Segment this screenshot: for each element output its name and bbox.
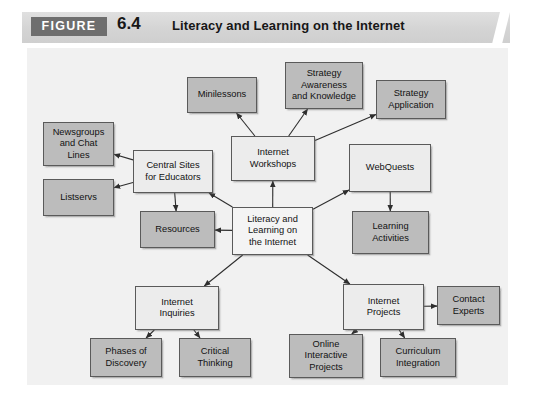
diagram-canvas: MinilessonsStrategy Awareness and Knowle… [27, 48, 508, 385]
connector-literacy-center-to-internet-projects [308, 255, 350, 284]
node-curriculum-integration[interactable]: Curriculum Integration [380, 338, 456, 377]
connector-central-sites-to-newsgroups [114, 154, 133, 160]
node-internet-workshops[interactable]: Internet Workshops [231, 136, 315, 181]
connector-internet-inquiries-to-critical-thinking [194, 330, 200, 338]
figure-title: Literacy and Learning on the Internet [172, 18, 405, 33]
connector-literacy-center-to-central-sites [209, 193, 232, 207]
node-phases-discovery[interactable]: Phases of Discovery [90, 338, 162, 377]
node-literacy-center[interactable]: Literacy and Learning on the Internet [232, 207, 313, 255]
connector-internet-workshops-to-minilessons [237, 113, 255, 136]
figure-number: 6.4 [117, 14, 141, 34]
connector-internet-workshops-to-strategy-application [315, 115, 376, 141]
node-internet-inquiries[interactable]: Internet Inquiries [135, 286, 219, 330]
node-resources[interactable]: Resources [140, 211, 215, 248]
node-online-interactive[interactable]: Online Interactive Projects [289, 334, 363, 378]
figure-page: FIGURE 6.4 Literacy and Learning on the … [0, 0, 535, 418]
node-learning-activities[interactable]: Learning Activities [352, 211, 429, 254]
connector-literacy-center-to-internet-inquiries [204, 255, 242, 286]
node-minilessons[interactable]: Minilessons [187, 77, 257, 113]
connector-internet-inquiries-to-phases-discovery [146, 330, 154, 338]
node-contact-experts[interactable]: Contact Experts [437, 286, 500, 325]
node-listservs[interactable]: Listservs [43, 179, 114, 216]
connector-internet-projects-to-curriculum-integration [399, 330, 405, 338]
node-central-sites[interactable]: Central Sites for Educators [133, 150, 213, 193]
node-webquests[interactable]: WebQuests [349, 144, 431, 192]
connector-literacy-center-to-webquests [313, 190, 349, 209]
node-critical-thinking[interactable]: Critical Thinking [179, 338, 251, 377]
node-internet-projects[interactable]: Internet Projects [343, 284, 424, 330]
node-strategy-application[interactable]: Strategy Application [376, 80, 446, 119]
connector-central-sites-to-resources [175, 193, 176, 211]
connector-internet-workshops-to-strategy-awareness [289, 109, 308, 136]
node-newsgroups[interactable]: Newsgroups and Chat Lines [43, 122, 114, 166]
node-strategy-awareness[interactable]: Strategy Awareness and Knowledge [285, 62, 363, 109]
figure-tag-label: FIGURE [31, 17, 107, 36]
connector-central-sites-to-listservs [114, 183, 133, 188]
